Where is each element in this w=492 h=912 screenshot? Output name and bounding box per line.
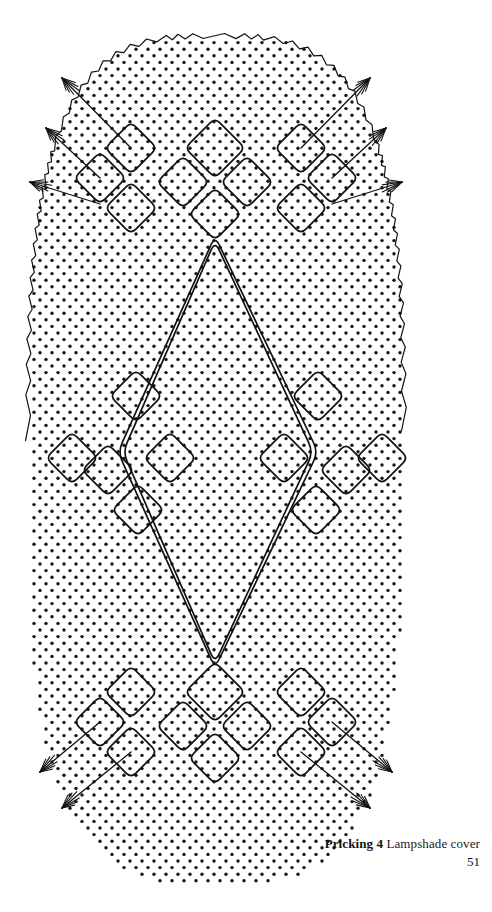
page-number: 51 [467, 854, 480, 870]
paper-background [0, 0, 492, 912]
caption-label: Pricking 4 [325, 836, 383, 851]
caption-title: Lampshade cover [386, 836, 480, 851]
pricking-diagram [0, 0, 492, 912]
figure-caption: Pricking 4 Lampshade cover [325, 836, 480, 852]
